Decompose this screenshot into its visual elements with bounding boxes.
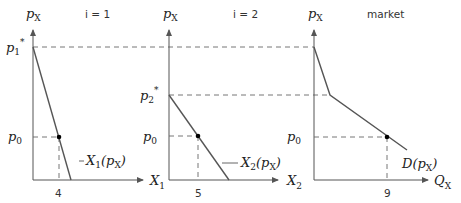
p2-star-label: p2*: [140, 85, 159, 105]
x-axis-label: X2: [286, 173, 302, 191]
p0-label: p0: [143, 129, 157, 146]
p0-label: p0: [8, 129, 22, 146]
curve-label: X2(pX): [240, 155, 281, 172]
p1-star-label: p1*: [6, 37, 25, 57]
q-tick-label: 5: [195, 187, 202, 199]
demand-curve-x1: [33, 47, 71, 180]
market-demand-curve: [314, 47, 407, 150]
p0-label: p0: [287, 129, 301, 146]
q-tick-label: 4: [55, 187, 62, 199]
curve-label: X1(pX): [85, 153, 126, 170]
panel-market: pX market p0 9 D(pX) QX: [287, 6, 452, 199]
panel-title: i = 1: [85, 8, 110, 20]
x-axis-label: X1: [149, 173, 165, 191]
q-tick-label: 9: [384, 187, 391, 199]
curve-label: D(pX): [401, 156, 437, 173]
equilibrium-point: [196, 134, 201, 139]
panel-i2: pX i = 2 p2* p0 5 X2(pX) X2: [140, 6, 302, 199]
panel-title: market: [367, 8, 404, 20]
equilibrium-point: [385, 135, 390, 140]
y-axis-label: pX: [163, 6, 178, 23]
y-axis-label: pX: [308, 6, 323, 23]
panel-title: i = 2: [233, 8, 258, 20]
demand-diagram: pX i = 1 p1* p0 4 X1(pX) X1 pX i = 2 p2*…: [0, 0, 461, 203]
y-axis-label: pX: [26, 6, 41, 23]
x-axis-label: QX: [434, 173, 452, 191]
equilibrium-point: [57, 135, 62, 140]
